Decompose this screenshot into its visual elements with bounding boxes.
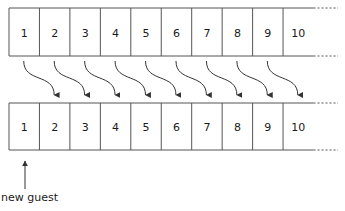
top-room-10: 10 [291,27,305,40]
shift-arrow-7-to-8 [206,61,236,95]
shift-arrow-3-to-4 [85,61,115,95]
top-room-8: 8 [234,27,241,40]
bottom-room-9: 9 [264,121,271,134]
bottom-room-2: 2 [51,121,58,134]
shift-arrow-5-to-6 [146,61,176,95]
top-room-2: 2 [51,27,58,40]
bottom-room-6: 6 [173,121,180,134]
bottom-room-4: 4 [112,121,119,134]
top-room-6: 6 [173,27,180,40]
hotel-rooms-diagram: 12345678910 12345678910 [0,0,345,211]
top-room-1: 1 [21,27,28,40]
new-guest-label: new guest [1,191,58,204]
bottom-room-7: 7 [203,121,210,134]
shift-arrow-1-to-2 [24,61,54,95]
top-room-5: 5 [143,27,150,40]
top-room-7: 7 [203,27,210,40]
bottom-room-5: 5 [143,121,150,134]
bottom-room-row: 12345678910 [9,103,338,150]
shift-arrow-8-to-9 [237,61,267,95]
shift-arrow-2-to-3 [54,61,84,95]
bottom-room-8: 8 [234,121,241,134]
shift-arrows [24,61,298,95]
top-room-9: 9 [264,27,271,40]
top-room-3: 3 [82,27,89,40]
shift-arrow-9-to-10 [267,61,297,95]
top-room-row: 12345678910 [9,8,338,56]
bottom-room-3: 3 [82,121,89,134]
shift-arrow-4-to-5 [115,61,145,95]
shift-arrow-6-to-7 [176,61,206,95]
top-room-4: 4 [112,27,119,40]
bottom-room-10: 10 [291,121,305,134]
bottom-room-1: 1 [21,121,28,134]
